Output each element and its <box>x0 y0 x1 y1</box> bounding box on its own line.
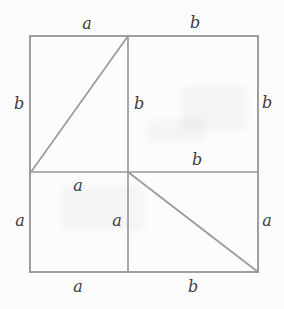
label-inner-horizontal-left-a: a <box>73 176 83 195</box>
label-inner-horizontal-right-b: b <box>192 150 202 169</box>
label-right-edge-a: a <box>262 211 272 230</box>
diagonal-top-left-rectangle <box>31 36 128 172</box>
label-bottom-edge-a: a <box>73 277 83 296</box>
diagonal-bottom-right-rectangle <box>128 172 258 272</box>
label-bottom-edge-b: b <box>188 277 198 296</box>
outer-square <box>30 36 258 272</box>
label-top-edge-a: a <box>82 14 92 33</box>
geometry-diagram: a b b a b a a b b b a a <box>0 0 284 309</box>
figure-canvas: a b b a b a a b b b a a <box>0 0 284 309</box>
label-inner-vertical-bottom-a: a <box>112 211 122 230</box>
label-left-edge-b: b <box>14 94 24 113</box>
label-left-edge-a: a <box>15 211 25 230</box>
label-inner-vertical-top-b: b <box>134 94 144 113</box>
label-top-edge-b: b <box>190 13 200 32</box>
label-right-edge-b: b <box>262 93 272 112</box>
